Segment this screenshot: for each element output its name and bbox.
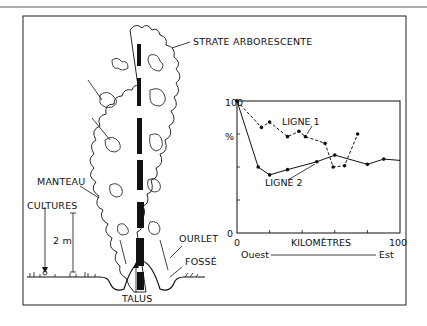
- label-manteau: MANTEAU: [37, 176, 85, 187]
- data-point: [382, 157, 386, 161]
- ground-profile: [27, 261, 205, 290]
- label-talus: TALUS: [121, 293, 152, 304]
- hedge-illustration: [27, 25, 205, 293]
- y-tick-0: 0: [227, 228, 233, 239]
- data-point: [286, 135, 290, 139]
- data-point: [256, 165, 260, 169]
- label-cultures: CULTURES: [27, 200, 78, 211]
- legend-ligne-1: LIGNE 1: [282, 116, 320, 127]
- data-point: [323, 141, 327, 145]
- data-point: [343, 164, 347, 168]
- data-point: [260, 126, 264, 130]
- x-tick-0: 0: [234, 237, 240, 248]
- data-point: [268, 120, 272, 124]
- data-point: [297, 130, 301, 134]
- label-ourlet: OURLET: [179, 233, 218, 244]
- figure-canvas: STRATE ARBORESCENTE MANTEAU CULTURES 2 m…: [0, 0, 427, 326]
- y-tick-100: 100: [225, 97, 243, 108]
- x-direction-east: Est: [379, 249, 394, 260]
- legend-ligne-2: LIGNE 2: [265, 177, 303, 188]
- x-axis-label: KILOMÈTRES: [291, 237, 351, 248]
- x-tick-100: 100: [389, 237, 407, 248]
- series-line-2: [237, 101, 400, 175]
- data-point: [356, 132, 360, 136]
- label-fosse: FOSSÉ: [185, 256, 217, 267]
- data-point: [331, 165, 335, 169]
- label-strate-arborescente: STRATE ARBORESCENTE: [193, 36, 313, 47]
- data-point: [315, 160, 319, 164]
- label-2m: 2 m: [53, 235, 72, 246]
- y-axis-label: %: [225, 131, 234, 142]
- leader-ligne-1: [307, 126, 312, 134]
- data-point: [286, 168, 290, 172]
- x-direction-west: Ouest: [241, 249, 269, 260]
- data-point: [304, 135, 308, 139]
- data-point: [366, 163, 370, 167]
- data-point: [333, 153, 337, 157]
